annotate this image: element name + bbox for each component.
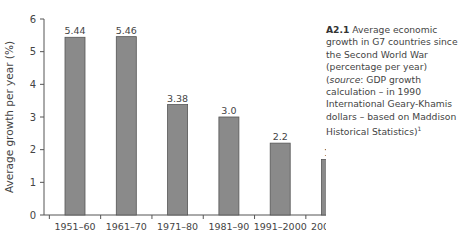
bar-value-label: 3.0 [221,105,236,116]
bar-value-label: 5.46 [116,25,137,36]
y-axis-title: Average growth per year (%) [3,41,15,193]
bars: 5.441951–605.461961–703.381971–803.01981… [54,25,326,232]
bar [65,37,85,215]
caption-footnote: 1 [418,125,422,132]
bar [270,143,290,215]
bar [322,159,327,215]
y-tick-label: 6 [30,14,36,25]
bar-value-label: 1.7 [324,147,326,158]
x-category-label: 1961–70 [106,221,147,232]
y-tick-label: 0 [30,210,36,221]
x-category-label: 1991–2000 [254,221,307,232]
x-category-label: 1971–80 [157,221,198,232]
y-tick-label: 1 [30,177,36,188]
caption-source-word: source [330,74,361,85]
y-tick-label: 4 [30,79,36,90]
bar-value-label: 5.44 [64,25,85,36]
figure-label: A2.1 [326,24,349,35]
bar [168,105,188,215]
y-tick-label: 2 [30,144,36,155]
y-tick-label: 5 [30,46,36,57]
bar-value-label: 3.38 [167,93,188,104]
bar-chart: 0123456Average growth per year (%)5.4419… [0,0,326,247]
y-tick-label: 3 [30,112,36,123]
figure-caption: A2.1 Average economic growth in G7 count… [326,24,462,139]
x-category-label: 1981–90 [208,221,249,232]
x-category-label: 2001–10 [311,221,326,232]
x-category-label: 1951–60 [54,221,95,232]
bar [116,37,136,215]
bar-value-label: 2.2 [273,131,288,142]
bar [219,117,239,215]
